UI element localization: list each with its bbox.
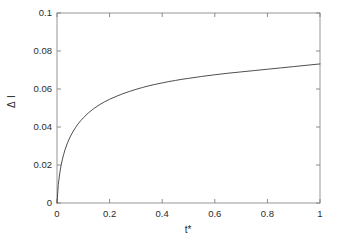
x-tick-label: 1 [317,209,322,219]
x-tick-label: 0 [54,209,59,219]
x-tick-label: 0.8 [261,209,274,219]
x-axis-title: t* [185,224,192,235]
y-tick-label: 0.04 [34,122,53,132]
axes-frame [57,13,320,203]
x-tick-label: 0.6 [208,209,221,219]
y-axis-title: Δ I [6,95,17,108]
x-tick-label: 0.4 [156,209,169,219]
x-tick-label: 0.2 [103,209,116,219]
tick-marks [57,13,320,203]
y-tick-label: 0 [47,198,52,208]
data-series-line [57,64,320,203]
y-tick-label: 0.02 [34,160,53,170]
y-tick-label: 0.06 [34,84,53,94]
figure-canvas: 00.020.040.060.080.1 00.20.40.60.81 Δ I … [0,0,340,244]
y-tick-label: 0.08 [34,46,53,56]
y-tick-label: 0.1 [39,8,52,18]
